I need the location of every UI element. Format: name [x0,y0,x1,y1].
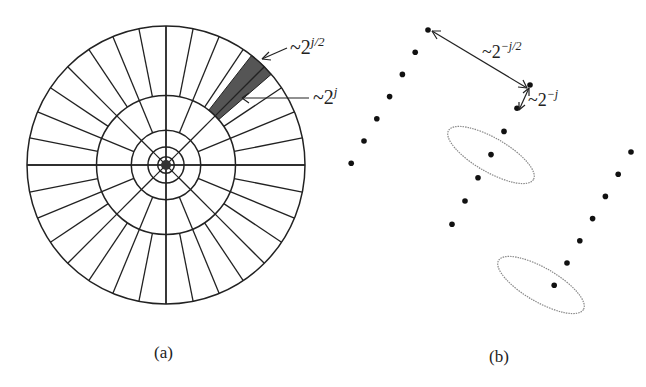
coefficient-dot [603,194,609,200]
spoke-outer [234,138,302,152]
caption-a: (a) [154,343,173,362]
coefficient-dot [488,152,494,158]
spoke-middle [102,138,134,151]
coefficient-dot [449,221,455,227]
spoke-outer [68,67,117,116]
coefficient-dot [501,129,507,135]
spoke-middle [191,116,216,141]
support-ellipse [490,246,592,324]
spoke-middle [117,116,142,141]
coefficient-dot [615,171,621,177]
coefficient-dot [425,27,431,33]
coefficient-dot [590,216,596,222]
annotation-length-base: ~2 [313,86,334,108]
annotation-width-exp: j/2 [309,34,325,49]
spoke-middle [102,178,134,191]
svg-text:~2−j: ~2−j [528,87,559,110]
annotation-spacing-short-base: ~2 [528,90,547,110]
spoke-outer [30,179,98,193]
annotation-width-base: ~2 [290,36,311,58]
spoke-inner [141,178,153,190]
spoke-inner [179,178,191,190]
annotation-spacing-long: ~2−j/2 [432,31,527,88]
spoke-outer [234,179,302,193]
spoke-outer [180,29,194,97]
coefficient-dot [577,238,583,244]
panel-a-polar-tiling [27,26,305,304]
coefficient-dot [348,160,354,166]
spoke-inner [179,140,191,152]
caption-b: (b) [489,347,509,366]
spoke-outer [139,233,153,301]
coefficient-dot [361,138,367,144]
coefficient-dot [475,175,481,181]
coefficient-dot [628,149,634,155]
coefficient-dot [527,82,533,88]
spoke-inner [141,140,153,152]
annotation-spacing-short-exp: −j [547,87,559,101]
spoke-middle [117,190,142,215]
coefficient-dot [564,260,570,266]
spoke-outer [68,214,117,263]
spoke-outer [180,233,194,301]
spoke-outer [215,214,264,263]
figure: ~2j/2 ~2j ~2−j/2 ~2−j (a) (b) [0,0,646,387]
spoke-middle [198,138,230,151]
spoke-middle [198,178,230,191]
annotation-width: ~2j/2 [262,34,325,60]
spoke-middle [139,197,152,229]
spoke-outer [30,138,98,152]
coefficient-dot [551,282,557,288]
annotation-spacing-long-exp: −j/2 [501,39,522,53]
center-core [161,160,171,170]
spoke-middle [179,197,192,229]
panel-b-coefficient-lattice [348,27,633,324]
coefficient-dot [387,94,393,100]
spoke-middle [139,101,152,133]
svg-text:~2j/2: ~2j/2 [290,34,325,58]
coefficient-dot [462,198,468,204]
spoke-middle [191,190,216,215]
svg-text:~2j: ~2j [313,84,338,108]
svg-text:~2−j/2: ~2−j/2 [482,39,522,62]
spoke-middle [179,101,192,133]
coefficient-dot [374,116,380,122]
spoke-outer [139,29,153,97]
coefficient-dot [412,49,418,55]
coefficient-dot [400,72,406,78]
annotation-spacing-short: ~2−j [519,87,559,110]
annotation-spacing-long-base: ~2 [482,42,501,62]
